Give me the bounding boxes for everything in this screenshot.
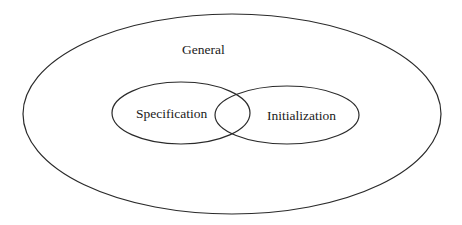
general-set-ellipse — [23, 14, 441, 214]
venn-diagram: General Specification Initialization — [0, 0, 462, 225]
general-label: General — [182, 42, 225, 57]
specification-label: Specification — [136, 106, 207, 121]
initialization-label: Initialization — [267, 108, 336, 123]
